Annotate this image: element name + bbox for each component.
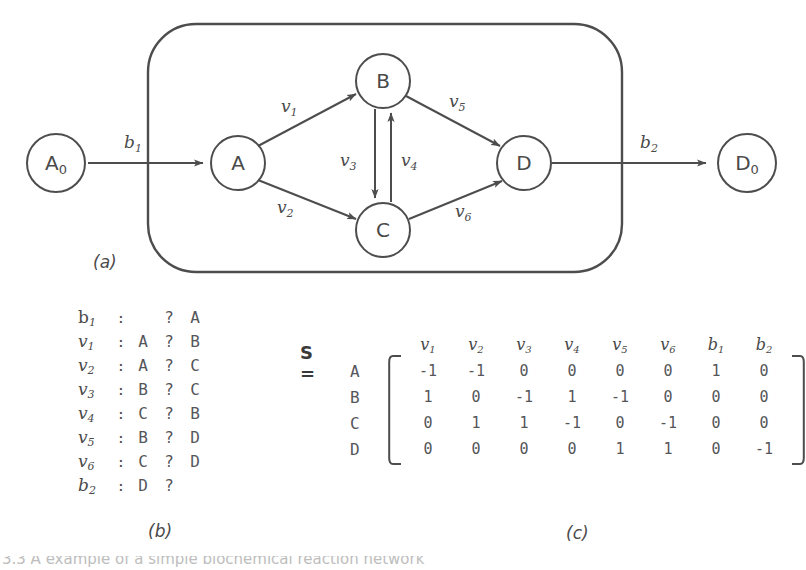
matrix-cell: 0 bbox=[596, 410, 644, 436]
reaction-name-subscript: 1 bbox=[88, 340, 95, 353]
reaction-substrate: A bbox=[130, 354, 156, 378]
reaction-name: v3 bbox=[78, 377, 118, 404]
reaction-product: C bbox=[182, 378, 208, 402]
reaction-product: B bbox=[182, 330, 208, 354]
matrix-cell: 1 bbox=[500, 410, 548, 436]
matrix-column-header-subscript: 2 bbox=[766, 344, 772, 355]
reaction-product: D bbox=[182, 450, 208, 474]
reaction-arrow: ? bbox=[156, 354, 182, 378]
edge-label-v5: v5 bbox=[449, 91, 466, 114]
reaction-name: v5 bbox=[78, 425, 118, 452]
matrix-row-header: D bbox=[348, 436, 386, 462]
reaction-product: A bbox=[182, 306, 208, 330]
figure-caption-cutoff: 3.3 A example of a simple biochemical re… bbox=[0, 556, 803, 570]
reaction-substrate: D bbox=[130, 474, 156, 498]
reaction-colon: : bbox=[118, 449, 130, 473]
edge-label-v6: v6 bbox=[455, 201, 472, 224]
matrix-column-header-subscript: 2 bbox=[477, 344, 483, 355]
matrix-cell: -1 bbox=[452, 358, 500, 384]
matrix-column-header-base: v bbox=[516, 335, 525, 354]
matrix-column-header-subscript: 6 bbox=[669, 344, 675, 355]
reaction-product: C bbox=[182, 354, 208, 378]
matrix-cell: 0 bbox=[596, 358, 644, 384]
matrix-column-header-subscript: 1 bbox=[718, 344, 724, 355]
reaction-name-subscript: 2 bbox=[89, 484, 96, 497]
reaction-colon: : bbox=[118, 473, 130, 497]
matrix-bracket-spacer bbox=[386, 384, 404, 410]
reaction-name-subscript: 2 bbox=[88, 364, 95, 377]
matrix-cell: 1 bbox=[644, 436, 692, 462]
reaction-colon: : bbox=[118, 329, 130, 353]
matrix-cell: -1 bbox=[644, 410, 692, 436]
matrix-grid: v1v2v3v4v5v6b1b2A-1-1000010B10-11-1000C0… bbox=[348, 330, 806, 462]
reaction-colon: : bbox=[118, 305, 130, 329]
matrix-row-header: B bbox=[348, 384, 386, 410]
matrix-cell: 0 bbox=[404, 410, 452, 436]
matrix-column-header: v5 bbox=[596, 330, 644, 358]
reaction-arrow: ? bbox=[156, 306, 182, 330]
reaction-row: v3:B?C bbox=[78, 377, 293, 401]
reaction-row: b2:D? bbox=[78, 473, 293, 497]
matrix-column-header-base: v bbox=[564, 335, 573, 354]
matrix-corner-cell bbox=[348, 330, 386, 358]
stoichiometric-matrix-table: v1v2v3v4v5v6b1b2A-1-1000010B10-11-1000C0… bbox=[348, 330, 806, 462]
matrix-column-header-base: v bbox=[612, 335, 621, 354]
matrix-column-header: v6 bbox=[644, 330, 692, 358]
matrix-bracket-spacer bbox=[386, 358, 404, 384]
reaction-substrate: B bbox=[130, 426, 156, 450]
panel-b-caption: (b) bbox=[148, 521, 172, 541]
reaction-row: v1:A?B bbox=[78, 329, 293, 353]
reaction-arrow: ? bbox=[156, 330, 182, 354]
reaction-arrow: ? bbox=[156, 450, 182, 474]
matrix-cell: 0 bbox=[740, 384, 788, 410]
matrix-cell: 0 bbox=[500, 358, 548, 384]
matrix-cell: 0 bbox=[500, 436, 548, 462]
matrix-cell: -1 bbox=[740, 436, 788, 462]
edge-label-b1: b1 bbox=[124, 132, 142, 155]
reaction-name-subscript: 3 bbox=[88, 388, 95, 401]
matrix-cell: 0 bbox=[548, 358, 596, 384]
matrix-bracket-spacer bbox=[386, 436, 404, 462]
edge-label-v1: v1 bbox=[281, 96, 298, 119]
matrix-column-header-subscript: 3 bbox=[525, 344, 531, 355]
node-a-label: A bbox=[231, 151, 245, 175]
matrix-column-header: v2 bbox=[452, 330, 500, 358]
reaction-name-base: v bbox=[78, 331, 88, 351]
matrix-column-header-base: v bbox=[660, 335, 669, 354]
matrix-title: S = bbox=[300, 342, 316, 384]
matrix-cell: 1 bbox=[692, 358, 740, 384]
edge-v1 bbox=[258, 94, 356, 146]
reaction-row: v4:C?B bbox=[78, 401, 293, 425]
matrix-bracket-spacer bbox=[788, 436, 806, 462]
matrix-cell: 1 bbox=[452, 410, 500, 436]
matrix-cell: 0 bbox=[692, 410, 740, 436]
matrix-column-header-subscript: 4 bbox=[573, 344, 579, 355]
matrix-cell: 0 bbox=[644, 358, 692, 384]
matrix-row: D0000110-1 bbox=[348, 436, 806, 462]
matrix-bracket-spacer bbox=[788, 384, 806, 410]
reaction-name-base: v bbox=[78, 379, 88, 399]
matrix-cell: -1 bbox=[500, 384, 548, 410]
reaction-row: v5:B?D bbox=[78, 425, 293, 449]
reaction-product: D bbox=[182, 426, 208, 450]
matrix-column-header: b1 bbox=[692, 330, 740, 358]
matrix-cell: 0 bbox=[452, 436, 500, 462]
edge-v2 bbox=[258, 180, 356, 219]
reaction-row: b1:?A bbox=[78, 305, 293, 329]
matrix-bracket-spacer bbox=[788, 410, 806, 436]
node-c-label: C bbox=[376, 218, 390, 242]
reaction-colon: : bbox=[118, 353, 130, 377]
edge-label-v4: v4 bbox=[401, 150, 418, 173]
matrix-bracket-spacer bbox=[386, 410, 404, 436]
panel-c-caption: (c) bbox=[566, 523, 589, 543]
edge-label-v3: v3 bbox=[340, 150, 357, 173]
reaction-name: v2 bbox=[78, 353, 118, 380]
matrix-column-header: v4 bbox=[548, 330, 596, 358]
matrix-row: C011-10-100 bbox=[348, 410, 806, 436]
matrix-column-header-base: b bbox=[756, 335, 766, 354]
matrix-bracket-spacer bbox=[788, 358, 806, 384]
edge-label-v2: v2 bbox=[277, 197, 294, 220]
reaction-substrate: B bbox=[130, 378, 156, 402]
matrix-column-header: v1 bbox=[404, 330, 452, 358]
reaction-name-base: b bbox=[78, 307, 89, 327]
